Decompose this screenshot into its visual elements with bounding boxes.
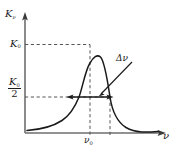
spectral-line-profile-figure: Kν K0 K0 2 ν0 ν Δν xyxy=(0,0,176,165)
line-center-tick-label: ν0 xyxy=(84,136,93,145)
linewidth-label: Δν xyxy=(116,54,128,63)
half-maximum-numerator: K0 xyxy=(8,77,21,88)
peak-value-subscript: 0 xyxy=(17,43,20,49)
linewidth-leader-group xyxy=(99,62,133,97)
guide-lines-group xyxy=(25,45,110,137)
y-axis-label: Kν xyxy=(5,9,16,19)
peak-value-label: K0 xyxy=(10,39,21,49)
half-maximum-value-label: K0 2 xyxy=(8,77,21,99)
line-center-subscript: 0 xyxy=(89,140,92,146)
x-axis-label: ν xyxy=(163,131,169,141)
lorentzian-curve xyxy=(27,56,159,132)
linewidth-leader-line xyxy=(101,62,132,94)
half-maximum-denominator: 2 xyxy=(8,89,21,100)
half-maximum-numerator-subscript: 0 xyxy=(16,82,19,88)
axes-group xyxy=(22,12,166,136)
y-axis-label-subscript: ν xyxy=(12,14,15,20)
